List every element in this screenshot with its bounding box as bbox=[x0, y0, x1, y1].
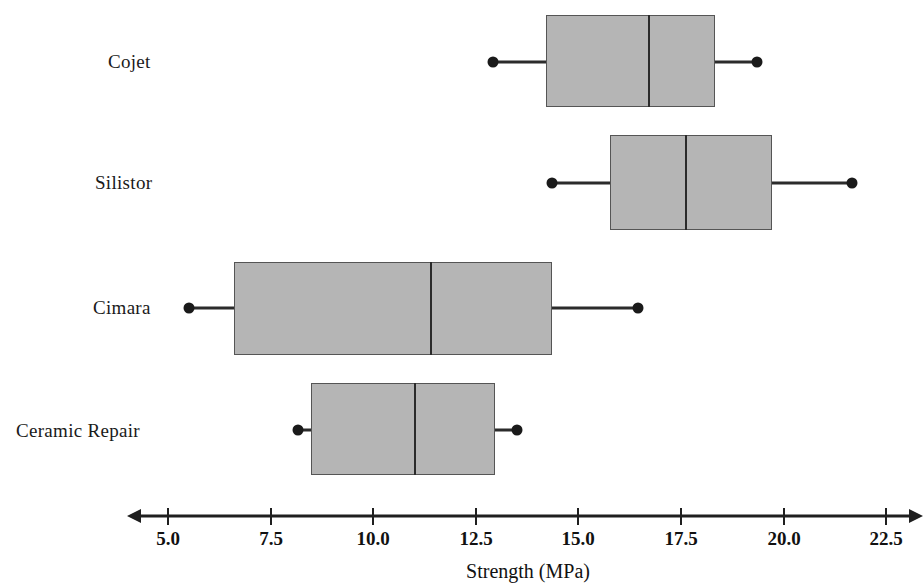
x-axis-arrow-left-icon bbox=[127, 509, 141, 523]
whisker-cap-max-cojet bbox=[752, 57, 763, 68]
box-cimara bbox=[234, 262, 552, 355]
x-axis-tick bbox=[372, 508, 374, 525]
x-axis-tick-label: 22.5 bbox=[869, 528, 902, 550]
box-ceramic-repair bbox=[311, 383, 495, 475]
median-line-cojet bbox=[648, 15, 650, 107]
x-axis-tick bbox=[270, 508, 272, 525]
category-label-cimara: Cimara bbox=[93, 297, 151, 319]
median-line-ceramic-repair bbox=[414, 383, 416, 475]
whisker-cap-max-ceramic-repair bbox=[512, 425, 523, 436]
x-axis-tick bbox=[783, 508, 785, 525]
whisker-cap-min-ceramic-repair bbox=[293, 425, 304, 436]
whisker-cap-min-cimara bbox=[184, 303, 195, 314]
x-axis-tick-label: 20.0 bbox=[767, 528, 800, 550]
x-axis-tick bbox=[475, 508, 477, 525]
x-axis-arrow-right-icon bbox=[909, 509, 923, 523]
category-label-cojet: Cojet bbox=[108, 51, 151, 73]
box-plot-chart: Cojet Silistor Cimara Ceramic Repair 5.0… bbox=[0, 0, 924, 586]
box-silistor bbox=[610, 135, 772, 230]
x-axis-tick-label: 10.0 bbox=[356, 528, 389, 550]
category-label-ceramic-repair: Ceramic Repair bbox=[16, 420, 140, 442]
x-axis-title: Strength (MPa) bbox=[466, 560, 590, 583]
x-axis-tick-label: 5.0 bbox=[156, 528, 180, 550]
box-cojet bbox=[546, 15, 715, 107]
x-axis-line bbox=[140, 515, 911, 518]
x-axis-tick bbox=[167, 508, 169, 525]
median-line-silistor bbox=[685, 135, 687, 230]
median-line-cimara bbox=[430, 262, 432, 355]
x-axis-tick-label: 7.5 bbox=[259, 528, 283, 550]
x-axis-tick bbox=[577, 508, 579, 525]
x-axis-tick-label: 15.0 bbox=[561, 528, 594, 550]
whisker-cap-min-silistor bbox=[547, 178, 558, 189]
x-axis-tick bbox=[680, 508, 682, 525]
x-axis-tick bbox=[885, 508, 887, 525]
whisker-cap-min-cojet bbox=[488, 57, 499, 68]
x-axis-tick-label: 12.5 bbox=[459, 528, 492, 550]
whisker-cap-max-cimara bbox=[633, 303, 644, 314]
category-label-silistor: Silistor bbox=[95, 172, 152, 194]
x-axis-tick-label: 17.5 bbox=[664, 528, 697, 550]
whisker-cap-max-silistor bbox=[847, 178, 858, 189]
